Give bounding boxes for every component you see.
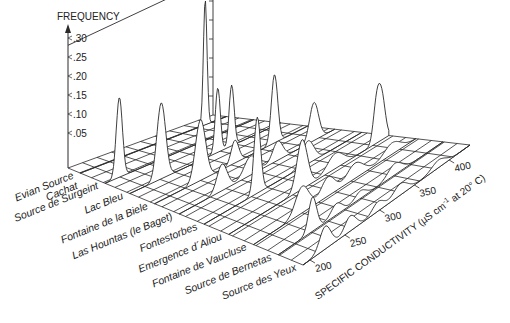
conductivity-tick-label: 300 [384, 210, 403, 224]
frequency-tick [68, 74, 72, 78]
frequency-tick [68, 131, 72, 135]
conductivity-tick-label: 400 [453, 160, 472, 174]
frequency-axis-title: FREQUENCY [57, 11, 120, 22]
conductivity-tick-label: 200 [314, 260, 333, 274]
frequency-tick-label: .25 [73, 52, 87, 63]
frequency-axis: .05.10.15.20.25.30 [65, 24, 87, 168]
chart: .05.10.15.20.25.30 200250300350400SPECIF… [0, 0, 510, 323]
grid-line [68, 115, 213, 168]
frequency-tick-label: .05 [73, 128, 87, 139]
frequency-tick [68, 112, 72, 116]
frequency-tick-label: .20 [73, 71, 87, 82]
frequency-tick-label: .15 [73, 90, 87, 101]
frequency-tick [68, 93, 72, 97]
conductivity-tick-label: 250 [349, 235, 368, 249]
frequency-tick-label: .10 [73, 109, 87, 120]
frequency-tick-label: .30 [73, 33, 87, 44]
conductivity-tick-label: 350 [418, 185, 437, 199]
frequency-tick [68, 36, 72, 40]
frequency-tick [68, 55, 72, 59]
arrow-up-icon [65, 24, 71, 33]
